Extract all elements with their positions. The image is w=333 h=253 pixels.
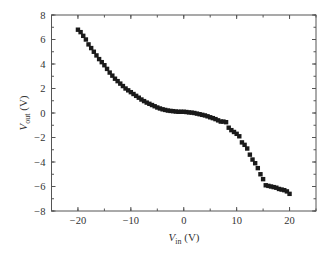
data-point-marker (256, 166, 260, 170)
x-tick-label: 0 (181, 215, 186, 226)
y-tick-label: −4 (34, 157, 46, 168)
data-point-marker (287, 192, 291, 196)
y-tick-label: −6 (34, 181, 45, 192)
x-tick-label: 20 (284, 215, 295, 226)
x-axis-label: Vin (V) (169, 231, 200, 246)
y-tick-label: 6 (40, 34, 45, 45)
data-point-marker (224, 120, 228, 124)
y-tick-label: −2 (34, 132, 45, 143)
data-point-marker (258, 172, 262, 176)
data-point-marker (84, 37, 88, 41)
data-point-marker (245, 146, 249, 150)
x-tick-label: −20 (70, 215, 86, 226)
y-tick-label: 4 (40, 59, 46, 70)
data-point-marker (261, 177, 265, 181)
x-tick-label: 10 (231, 215, 242, 226)
x-tick-label: −10 (123, 215, 139, 226)
y-axis-label: Vout (V) (17, 95, 32, 130)
y-tick-label: 8 (40, 10, 45, 21)
data-point-marker (237, 134, 241, 138)
y-tick-label: −8 (34, 206, 45, 217)
y-tick-label: 0 (40, 108, 45, 119)
data-point-marker (253, 161, 257, 165)
y-tick-label: 2 (40, 83, 45, 94)
data-point-marker (248, 152, 252, 156)
chart: −20−1001020 −8−6−4−202468 Vin (V) Vout (… (0, 0, 333, 253)
data-points (76, 28, 292, 197)
